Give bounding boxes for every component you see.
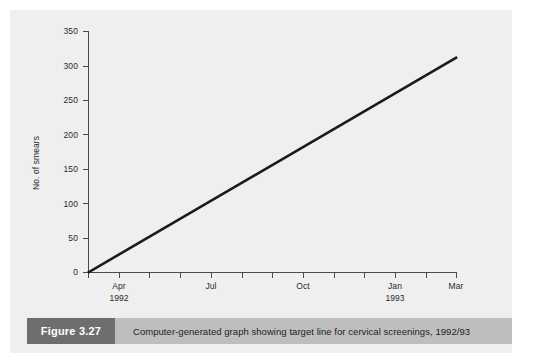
x-tick-label-mar: Mar: [449, 281, 464, 291]
y-tick-label-150: 150: [54, 164, 78, 174]
chart-svg: [10, 10, 512, 308]
chart-plot-area: 350 300 250 200 150 100 50 0 Apr 1992 Ju…: [10, 10, 512, 308]
x-tick-label-jul: Jul: [205, 281, 216, 291]
y-tick-label-350: 350: [54, 26, 78, 36]
y-tick-label-0: 0: [54, 267, 78, 277]
y-axis-ticks: [83, 32, 89, 273]
x-axis-ticks: [89, 273, 457, 279]
y-tick-label-50: 50: [54, 233, 78, 243]
y-tick-label-200: 200: [54, 130, 78, 140]
x-tick-label-jan: Jan: [388, 281, 402, 291]
figure-container: 350 300 250 200 150 100 50 0 Apr 1992 Ju…: [0, 0, 539, 363]
figure-caption-bar: Figure 3.27 Computer-generated graph sho…: [27, 318, 512, 344]
y-tick-label-100: 100: [54, 199, 78, 209]
target-line-series: [89, 58, 456, 272]
x-tick-sublabel-1993: 1993: [386, 293, 405, 303]
y-tick-label-300: 300: [54, 61, 78, 71]
figure-caption-text: Computer-generated graph showing target …: [115, 318, 512, 344]
y-tick-label-250: 250: [54, 95, 78, 105]
x-tick-label-apr: Apr: [112, 281, 126, 291]
y-axis-title: No. of smears: [31, 136, 41, 190]
x-tick-sublabel-1992: 1992: [110, 293, 129, 303]
figure-number-badge: Figure 3.27: [27, 318, 115, 344]
x-tick-label-oct: Oct: [296, 281, 310, 291]
